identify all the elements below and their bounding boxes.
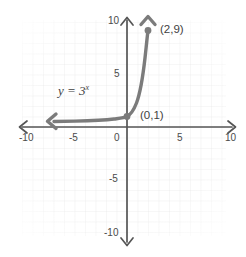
point-0-1-marker xyxy=(124,113,131,120)
equation-exponent: x xyxy=(86,83,90,92)
coordinate-plane-svg xyxy=(0,0,246,257)
grid-lines xyxy=(22,20,226,236)
y-tick-label-pos5: 5 xyxy=(114,69,120,79)
equation-label: y = 3x xyxy=(58,84,89,97)
point-2-9-label: (2,9) xyxy=(160,24,184,36)
y-tick-label-neg5: -5 xyxy=(109,174,118,184)
x-tick-label-zero: 0 xyxy=(114,133,120,143)
y-tick-label-pos10: 10 xyxy=(108,16,119,26)
x-tick-label-pos5: 5 xyxy=(177,133,183,143)
x-tick-label-pos10: 10 xyxy=(225,133,236,143)
x-tick-label-neg5: -5 xyxy=(69,133,78,143)
x-tick-label-neg10: -10 xyxy=(19,133,33,143)
equation-base: y = 3 xyxy=(58,83,86,98)
graph-figure: -10 -5 0 5 10 10 5 -5 -10 (0,1) (2,9) y … xyxy=(0,0,246,257)
point-0-1-label: (0,1) xyxy=(140,110,164,122)
point-2-9-marker xyxy=(145,27,152,34)
y-tick-label-neg10: -10 xyxy=(104,228,118,238)
